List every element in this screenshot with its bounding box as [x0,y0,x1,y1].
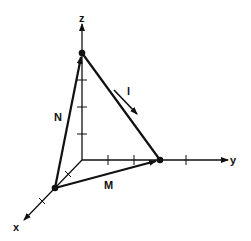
z-axis-label: z [79,12,85,24]
label-N: N [54,111,62,123]
x-axis: x [13,160,82,233]
z-axis: z [77,12,87,160]
label-M: M [104,179,113,191]
point-y [157,157,164,164]
point-x [52,185,59,192]
vector-diagram: z y x N M l [0,0,251,241]
edge-z-to-y [82,53,160,160]
y-axis-label: y [230,154,237,166]
x-axis-label: x [13,221,20,233]
label-l: l [127,85,130,97]
point-z [79,50,86,57]
